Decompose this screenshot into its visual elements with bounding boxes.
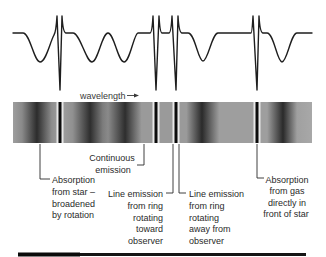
label-line: observer <box>128 236 163 246</box>
label-line: observer <box>189 236 224 246</box>
label-line: directly in <box>268 198 306 208</box>
label-line: from ring <box>127 201 163 211</box>
label-line: from star – <box>52 187 95 197</box>
leader-star-absorption <box>40 144 50 179</box>
leader-line-emission-away <box>179 144 186 193</box>
spectral-line <box>173 102 180 143</box>
label-line: away from <box>189 224 231 234</box>
label-line: broadened <box>52 199 95 209</box>
label-line: Line emission <box>108 189 163 199</box>
leader-line-emission-toward <box>166 144 173 193</box>
label-line: by rotation <box>52 210 94 220</box>
spectral-line-profile <box>13 16 312 90</box>
wavelength-label: wavelength <box>79 91 126 101</box>
label-star-absorption: Absorption from star – broadened by rota… <box>52 175 95 220</box>
label-line: from gas <box>269 186 305 196</box>
label-gas-absorption: Absorption from gas directly in front of… <box>263 175 309 220</box>
label-continuous-emission: Continuous emission <box>89 153 135 176</box>
label-line: front of star <box>263 209 309 219</box>
leader-gas-absorption <box>257 144 264 178</box>
label-line: emission <box>95 165 131 175</box>
arrow-right-icon <box>127 94 139 98</box>
label-line: Continuous <box>89 153 135 163</box>
label-line: rotating <box>133 213 163 223</box>
spectral-line <box>57 102 64 143</box>
label-line: rotating <box>189 213 219 223</box>
spectrum-diagram: wavelength Absorption from s <box>0 0 326 257</box>
label-line-emission-toward: Line emission from ring rotating toward … <box>108 189 163 246</box>
label-line: Absorption <box>52 175 95 185</box>
label-line: Line emission <box>189 189 244 199</box>
spectrum-band <box>13 102 312 143</box>
label-line-emission-away: Line emission from ring rotating away fr… <box>189 189 244 246</box>
label-line: toward <box>136 224 163 234</box>
wavelength-axis-label: wavelength <box>79 91 139 101</box>
label-line: Absorption <box>265 175 308 185</box>
spectral-line <box>153 102 160 143</box>
leader-continuous-emission <box>137 144 144 165</box>
bottom-rule <box>18 253 306 257</box>
spectral-line <box>254 102 261 143</box>
label-line: from ring <box>189 201 225 211</box>
